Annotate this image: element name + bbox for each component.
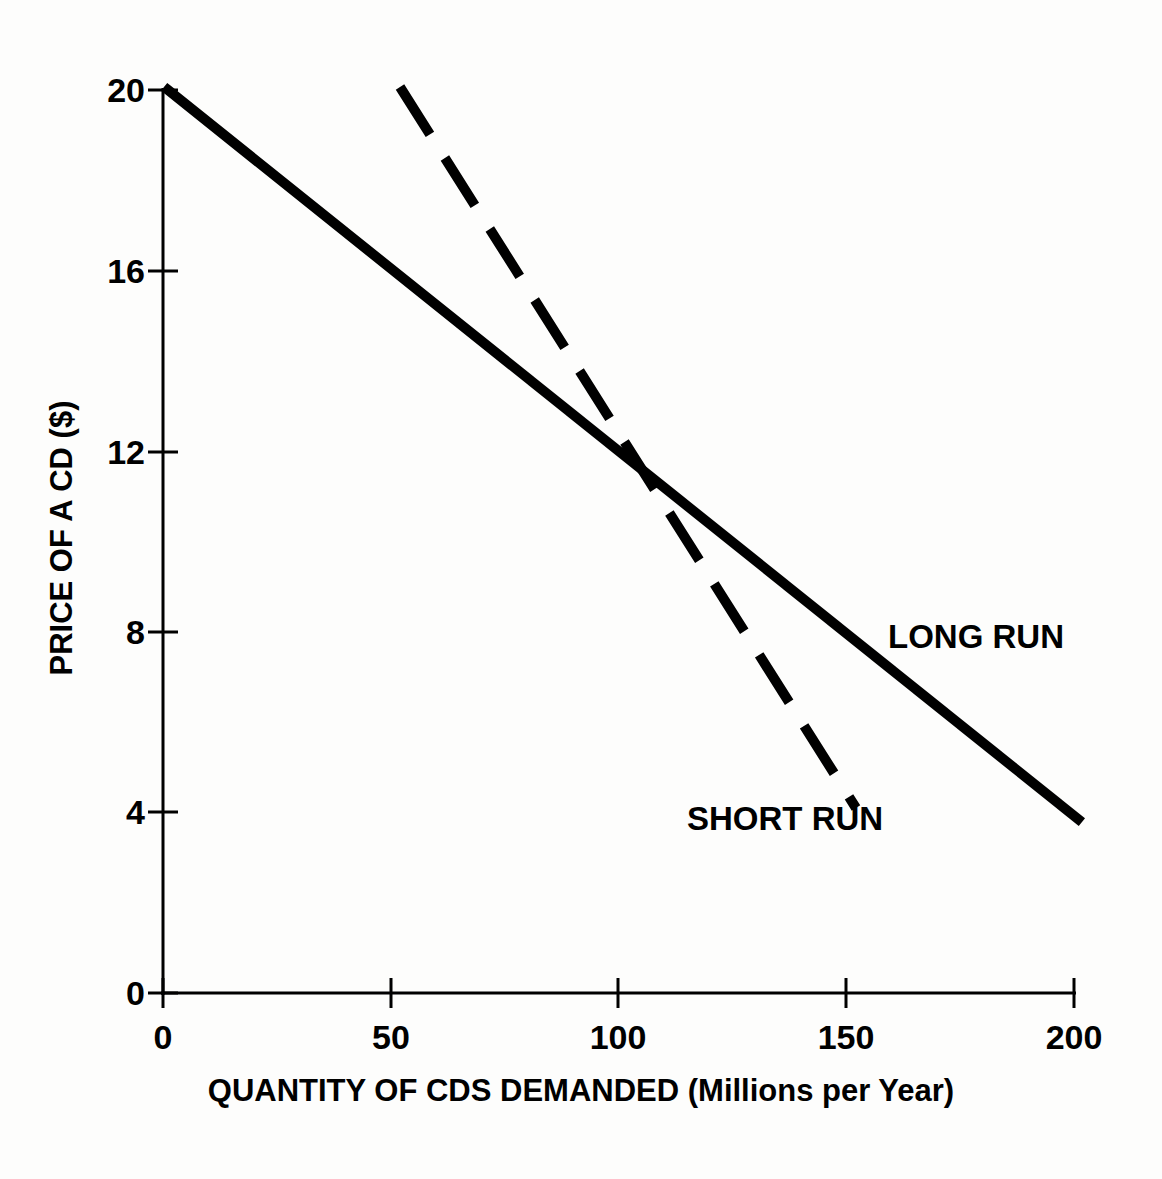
- x-tick-label-0: 0: [154, 1018, 173, 1057]
- series-label-long-run: LONG RUN: [888, 618, 1064, 656]
- y-axis-title: PRICE OF A CD ($): [44, 401, 80, 676]
- x-axis-title: QUANTITY OF CDS DEMANDED (Millions per Y…: [208, 1073, 954, 1109]
- x-tick-label-100: 100: [590, 1018, 647, 1057]
- y-tick-label-8: 8: [95, 613, 145, 652]
- chart-plot-area: [0, 0, 1162, 1179]
- y-tick-label-16: 16: [95, 252, 145, 291]
- series-line-long-run: [168, 90, 1078, 819]
- x-tick-label-150: 150: [818, 1018, 875, 1057]
- x-tick-label-200: 200: [1046, 1018, 1103, 1057]
- x-tick-label-50: 50: [372, 1018, 410, 1057]
- series-label-short-run: SHORT RUN: [687, 800, 883, 838]
- y-tick-label-0: 0: [95, 974, 145, 1013]
- y-tick-label-4: 4: [95, 793, 145, 832]
- chart-figure: 20 16 12 8 4 0 0 50 100 150 200 QUANTITY…: [0, 0, 1162, 1179]
- series-line-short-run: [400, 87, 856, 808]
- y-tick-label-20: 20: [95, 71, 145, 110]
- y-tick-label-12: 12: [95, 433, 145, 472]
